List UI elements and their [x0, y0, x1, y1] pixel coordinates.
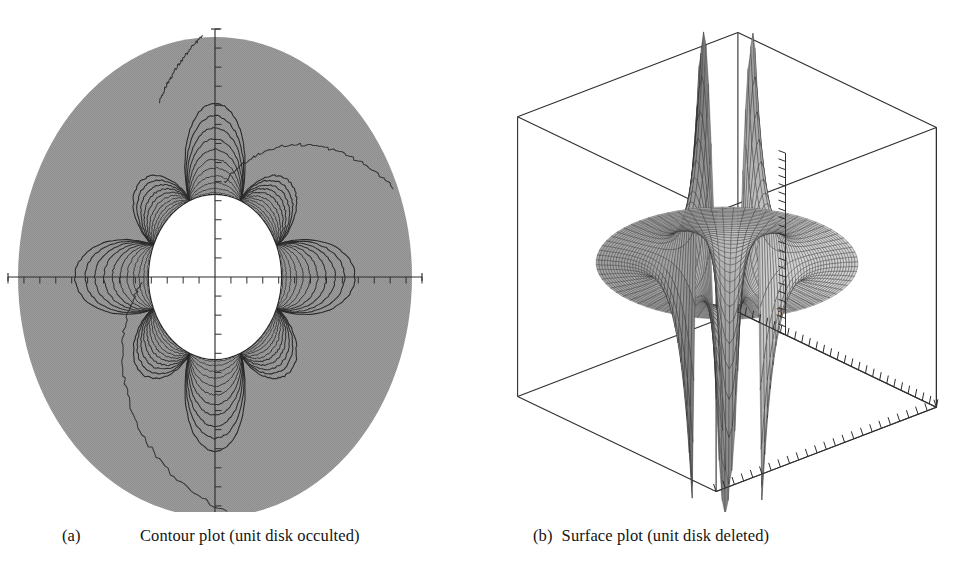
z-tick-label-3: 3 [776, 304, 783, 319]
caption-a-text: Contour plot (unit disk occulted) [140, 526, 360, 545]
caption-panel-a: (a)Contour plot (unit disk occulted) [62, 526, 360, 546]
contour-plot-svg [0, 0, 489, 512]
annulus-surface-mesh [596, 32, 858, 512]
caption-a-label: (a) [62, 526, 81, 545]
surface-plot-svg: 3 [489, 0, 978, 512]
caption-b-label: (b) [533, 526, 553, 545]
caption-b-text: Surface plot (unit disk deleted) [562, 526, 770, 545]
panel-surface-plot: 3 [489, 0, 978, 512]
figure-root: 3 (a)Contour plot (unit disk occulted) (… [0, 0, 978, 581]
caption-panel-b: (b)Surface plot (unit disk deleted) [533, 526, 769, 546]
caption-row: (a)Contour plot (unit disk occulted) (b)… [0, 512, 978, 581]
panel-contour-plot [0, 0, 489, 512]
